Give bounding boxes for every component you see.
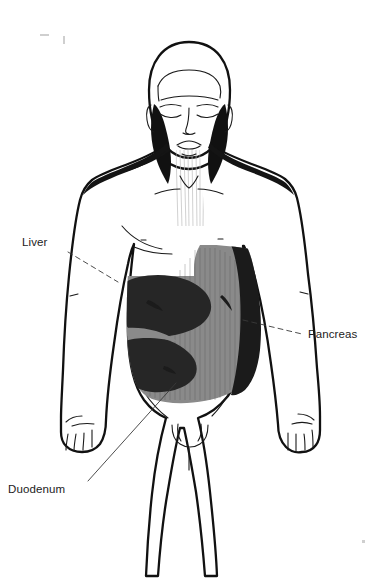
label-duodenum: Duodenum [8, 483, 65, 495]
label-pancreas: Pancreas [308, 328, 358, 340]
anatomical-figure: Liver Pancreas Duodenum [0, 0, 376, 579]
body-diagram-svg: Liver Pancreas Duodenum [0, 0, 376, 579]
label-liver: Liver [22, 236, 47, 248]
